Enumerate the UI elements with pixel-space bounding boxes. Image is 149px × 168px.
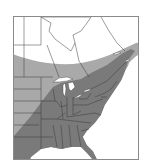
- legend-peripheral-range: Peripheral range: [0, 0, 1, 1]
- range-map: [13, 16, 139, 160]
- legend-core-range: Core range: [0, 0, 1, 1]
- range-map-frame: [13, 16, 139, 160]
